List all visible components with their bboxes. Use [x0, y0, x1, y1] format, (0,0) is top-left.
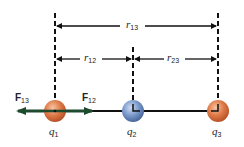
label-q2: q2 [127, 126, 136, 138]
q2-subscript: 2 [133, 131, 137, 138]
label-r23: r23 [167, 52, 179, 64]
label-r13: r13 [124, 19, 140, 31]
q3-subscript: 3 [218, 131, 222, 138]
label-F12: F12 [82, 93, 96, 104]
charge-q1-center [54, 110, 57, 113]
r12-subscript: 12 [88, 57, 96, 64]
r13-subscript: 13 [130, 24, 138, 31]
F12-subscript: 12 [88, 97, 96, 104]
r23-subscript: 23 [171, 57, 179, 64]
F13-subscript: 13 [21, 97, 29, 104]
label-q3: q3 [212, 126, 221, 138]
q1-subscript: 1 [55, 131, 59, 138]
label-q1: q1 [49, 126, 58, 138]
label-F13: F13 [15, 93, 29, 104]
diagram-canvas [0, 0, 244, 147]
label-r12: r12 [84, 52, 96, 64]
